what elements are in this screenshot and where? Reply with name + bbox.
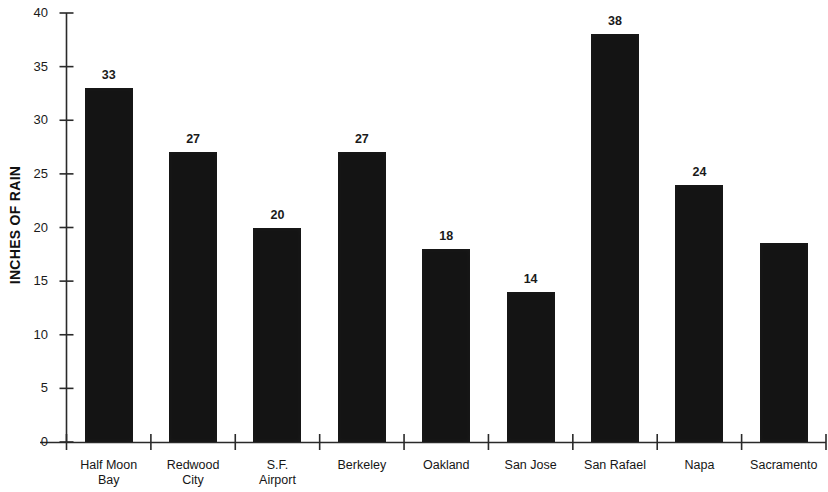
x-axis-category-label: Sacramento — [732, 458, 828, 473]
bar — [253, 228, 301, 443]
bar-value-label: 27 — [163, 133, 223, 146]
bar — [591, 34, 639, 442]
y-axis-tick-label: 15 — [14, 274, 48, 287]
y-axis-tick-label: 40 — [14, 6, 48, 19]
bar-value-label: 14 — [501, 273, 561, 286]
y-axis-tick-label: 30 — [14, 113, 48, 126]
bar — [338, 152, 386, 442]
y-axis-tick-label: 10 — [14, 328, 48, 341]
y-axis-tick-label: 35 — [14, 60, 48, 73]
rainfall-bar-chart: INCHES OF RAIN 0510152025303540 33272027… — [0, 0, 828, 492]
bar-value-label: 18 — [416, 230, 476, 243]
bar-value-label: 38 — [585, 15, 645, 28]
y-axis-tick-label: 20 — [14, 221, 48, 234]
bar — [169, 152, 217, 442]
bar-value-label: 24 — [669, 166, 729, 179]
bar-value-label: 33 — [79, 69, 139, 82]
y-axis-tick-label: 0 — [14, 435, 48, 448]
bar-value-label: 27 — [332, 133, 392, 146]
bar — [85, 88, 133, 442]
y-axis-tick-label: 25 — [14, 167, 48, 180]
bar — [675, 185, 723, 442]
bar — [422, 249, 470, 442]
bar — [507, 292, 555, 442]
y-axis-tick-label: 5 — [14, 381, 48, 394]
bar — [760, 243, 808, 442]
bar-value-label: 20 — [247, 209, 307, 222]
